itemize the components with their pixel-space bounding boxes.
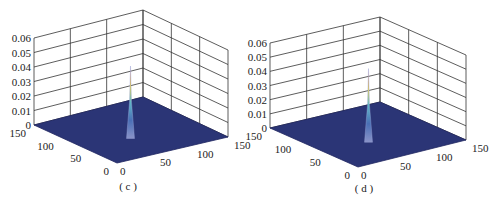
z-tick-label: 0.06 bbox=[248, 37, 268, 49]
z-tick-label: 0 bbox=[262, 122, 268, 134]
panel-caption: ( d ) bbox=[355, 182, 374, 195]
z-tick-label: 0.01 bbox=[12, 105, 31, 117]
y-tick-label: 50 bbox=[310, 156, 322, 168]
y-tick-label: 150 bbox=[246, 130, 263, 142]
y-tick-label: 0 bbox=[345, 169, 351, 181]
y-tick-label: 50 bbox=[70, 152, 82, 164]
surface-plot-d: 00.010.020.030.040.050.06150100500050100… bbox=[246, 17, 490, 195]
x-tick-label: 50 bbox=[160, 156, 172, 168]
z-tick-label: 0.05 bbox=[12, 47, 32, 59]
x-tick-label: 100 bbox=[436, 151, 453, 163]
x-tick-label: 0 bbox=[361, 169, 367, 181]
x-tick-label: 150 bbox=[472, 142, 489, 154]
surface-plot-c: 00.010.020.030.040.050.06150100500050100… bbox=[10, 10, 252, 193]
x-tick-label: 100 bbox=[197, 148, 214, 160]
y-tick-label: 100 bbox=[37, 140, 54, 152]
z-tick-label: 0.04 bbox=[12, 61, 32, 73]
figure: 00.010.020.030.040.050.06150100500050100… bbox=[0, 0, 490, 202]
panel-caption: ( c ) bbox=[119, 180, 137, 193]
x-tick-label: 50 bbox=[400, 160, 412, 172]
z-tick-label: 0.04 bbox=[248, 65, 268, 77]
z-tick-label: 0.01 bbox=[248, 108, 267, 120]
z-tick-label: 0.02 bbox=[248, 94, 267, 106]
y-tick-label: 100 bbox=[275, 143, 292, 155]
z-tick-label: 0.06 bbox=[12, 32, 32, 44]
z-tick-label: 0.03 bbox=[12, 76, 32, 88]
z-tick-label: 0.03 bbox=[248, 80, 268, 92]
z-tick-label: 0.02 bbox=[12, 90, 31, 102]
z-tick-label: 0 bbox=[26, 119, 32, 131]
y-tick-label: 150 bbox=[10, 127, 27, 139]
z-tick-label: 0.05 bbox=[248, 51, 268, 63]
y-tick-label: 0 bbox=[104, 165, 110, 177]
x-tick-label: 0 bbox=[120, 165, 126, 177]
